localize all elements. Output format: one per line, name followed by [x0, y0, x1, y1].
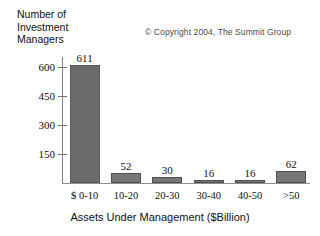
bar: 30 [152, 177, 182, 183]
bar-value-label: 16 [245, 167, 256, 179]
x-axis-title: Assets Under Management ($Billion) [0, 211, 320, 223]
plot-area: 150300450600 6115230161662 $ 0-1010-2020… [62, 57, 310, 184]
bar: 52 [111, 173, 141, 183]
y-tick-label: 150 [39, 148, 56, 160]
y-axis-title: Number of Investment Managers [17, 8, 87, 46]
category-label: 10-20 [114, 190, 139, 201]
bar: 16 [235, 180, 265, 183]
bar-value-label: 62 [286, 158, 297, 170]
copyright-note: © Copyright 2004, The Summit Group [145, 27, 291, 37]
bar: 16 [194, 180, 224, 183]
x-axis-line [62, 183, 310, 184]
bar-value-label: 611 [77, 52, 93, 64]
category-label: $ 0-10 [71, 190, 98, 201]
y-tick-mark [58, 154, 67, 155]
bar-value-label: 16 [203, 167, 214, 179]
y-axis-line [62, 57, 63, 184]
bar-value-label: 52 [121, 160, 132, 172]
bar-value-label: 30 [162, 164, 173, 176]
y-tick-mark [58, 125, 67, 126]
y-tick-mark [58, 67, 67, 68]
y-tick-mark [58, 96, 67, 97]
bar: 611 [70, 65, 100, 183]
category-label: >50 [283, 190, 299, 201]
y-tick-label: 600 [39, 61, 56, 73]
category-label: 40-50 [238, 190, 263, 201]
y-tick-label: 300 [39, 119, 56, 131]
bar-chart: Number of Investment Managers © Copyrigh… [0, 0, 320, 236]
bar: 62 [276, 171, 306, 183]
category-label: 30-40 [196, 190, 221, 201]
category-label: 20-30 [155, 190, 180, 201]
y-tick-label: 450 [39, 90, 56, 102]
